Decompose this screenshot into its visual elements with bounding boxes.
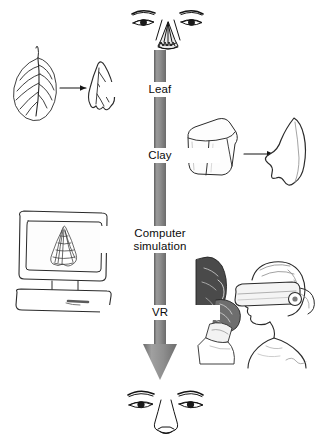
figure-canvas: Leaf Clay Computer simulation VR — [0, 0, 320, 440]
computer-monitor-with-wireframe-nose — [6, 206, 124, 318]
face-with-damaged-nose — [128, 2, 208, 54]
stage-label-vr: VR — [100, 305, 220, 320]
stage-label-clay: Clay — [100, 148, 220, 163]
downward-process-arrow — [143, 50, 177, 380]
face-with-reconstructed-nose — [124, 384, 208, 438]
stage-label-computer-simulation-line1: Computer — [100, 227, 220, 240]
stage-label-leaf: Leaf — [100, 82, 220, 97]
stage-label-computer-simulation: Computer simulation — [100, 226, 220, 253]
stage-label-computer-simulation-line2: simulation — [100, 240, 220, 253]
